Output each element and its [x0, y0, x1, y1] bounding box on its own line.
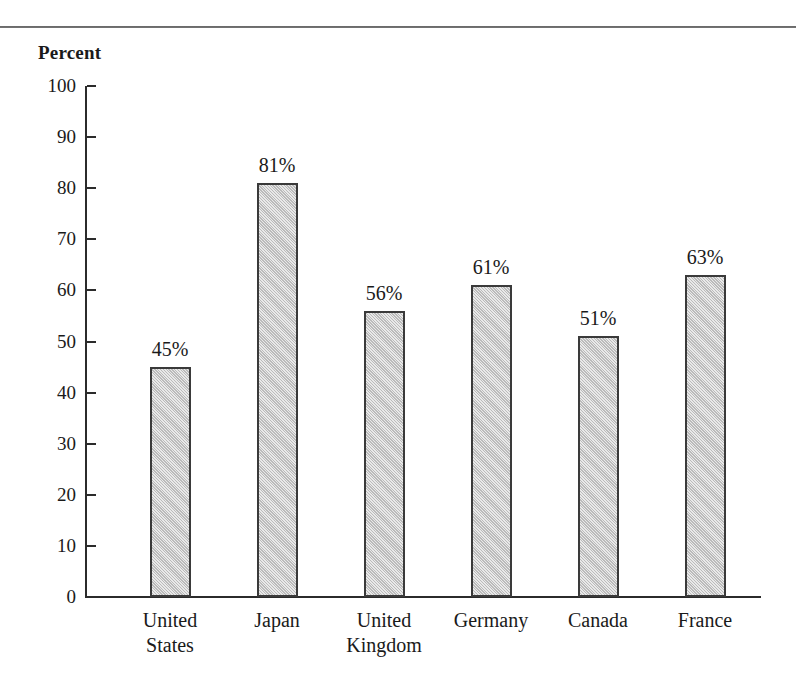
y-axis-tick-label-text: 20: [22, 485, 76, 504]
x-axis-category-label-line: States: [110, 633, 230, 658]
bar-value-label: 51%: [548, 308, 648, 328]
bar-value-label: 56%: [334, 283, 434, 303]
y-axis-tick: [87, 545, 96, 547]
x-axis-category-label: UnitedStates: [110, 608, 230, 658]
y-axis-tick-label: 90: [14, 127, 76, 146]
x-axis-category-label-line: Kingdom: [324, 633, 444, 658]
y-axis-tick: [87, 289, 96, 291]
bar-value-label: 61%: [441, 257, 541, 277]
bar-value-label: 63%: [655, 247, 755, 267]
y-axis-tick-label: 20: [14, 485, 76, 504]
bar: [578, 336, 619, 597]
y-axis-tick: [87, 494, 96, 496]
y-axis-tick-label-text: 50: [22, 332, 76, 351]
y-axis-tick-label: 70: [14, 229, 76, 248]
bar-value-label: 45%: [120, 339, 220, 359]
y-axis-tick-label: 100: [14, 76, 76, 95]
y-axis-tick-label-text: 0: [22, 587, 76, 606]
y-axis-tick-label-text: 60: [22, 280, 76, 299]
x-axis-category-label: Canada: [538, 608, 658, 633]
y-axis-tick-label-text: 100: [22, 76, 76, 95]
y-axis-tick-label: 40: [14, 383, 76, 402]
x-axis-category-label-line: Canada: [538, 608, 658, 633]
y-axis-tick-label: 0: [14, 587, 76, 606]
y-axis-tick-label: 10: [14, 536, 76, 555]
y-axis-tick-label: 80: [14, 178, 76, 197]
y-axis-tick-label: 30: [14, 434, 76, 453]
bar: [150, 367, 191, 597]
x-axis-category-label-line: United: [324, 608, 444, 633]
y-axis-tick-label-text: 40: [22, 383, 76, 402]
x-axis-category-label: UnitedKingdom: [324, 608, 444, 658]
bar-value-label: 81%: [227, 155, 327, 175]
y-axis-tick-label-text: 10: [22, 536, 76, 555]
x-axis-category-label-line: Japan: [217, 608, 337, 633]
y-axis-tick: [87, 443, 96, 445]
y-axis-tick: [87, 187, 96, 189]
x-axis-category-label-line: Germany: [431, 608, 551, 633]
bar: [471, 285, 512, 597]
x-axis-category-label-line: France: [645, 608, 765, 633]
y-axis-tick-label-text: 30: [22, 434, 76, 453]
y-axis-tick: [87, 85, 96, 87]
x-axis-category-label: France: [645, 608, 765, 633]
x-axis-category-label-line: United: [110, 608, 230, 633]
y-axis-tick: [87, 392, 96, 394]
y-axis-tick: [87, 136, 96, 138]
bar: [257, 183, 298, 597]
y-axis-tick: [87, 341, 96, 343]
y-axis-tick-label-text: 80: [22, 178, 76, 197]
y-axis-tick-label: 50: [14, 332, 76, 351]
y-axis-tick: [87, 238, 96, 240]
x-axis-category-label: Germany: [431, 608, 551, 633]
bar-chart-plot: 0102030405060708090100 45%81%56%61%51%63…: [0, 0, 796, 686]
y-axis-tick: [87, 596, 96, 598]
bar: [685, 275, 726, 597]
x-axis-category-label: Japan: [217, 608, 337, 633]
y-axis-tick-label: 60: [14, 280, 76, 299]
y-axis-tick-label-text: 70: [22, 229, 76, 248]
bar: [364, 311, 405, 597]
y-axis-tick-label-text: 90: [22, 127, 76, 146]
